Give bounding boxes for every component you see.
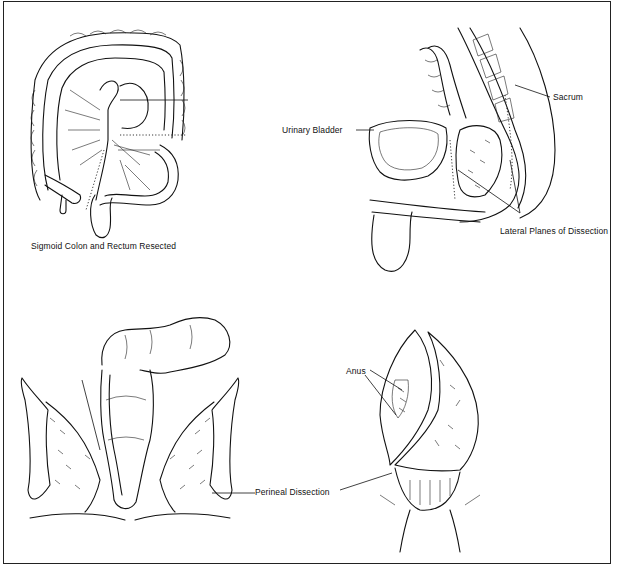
- label-sacrum: Sacrum: [553, 92, 583, 102]
- pelvic-sagittal-illustration: [310, 0, 619, 290]
- panel-sigmoid-resection: Sigmoid Colon and Rectum Resected: [0, 0, 310, 290]
- panel-perineal-dissection: Perineal Dissection: [0, 290, 310, 578]
- anal-closure-illustration: [310, 290, 619, 578]
- caption-sigmoid-resection: Sigmoid Colon and Rectum Resected: [31, 241, 176, 251]
- label-anus: Anus: [346, 366, 366, 376]
- perineal-illustration: [0, 290, 310, 578]
- panel-pelvic-sagittal: Sacrum Urinary Bladder Lateral Planes of…: [310, 0, 619, 290]
- label-lateral-planes: Lateral Planes of Dissection: [500, 226, 608, 236]
- panel-anal-closure: Anus: [310, 290, 619, 578]
- label-urinary-bladder: Urinary Bladder: [282, 125, 343, 135]
